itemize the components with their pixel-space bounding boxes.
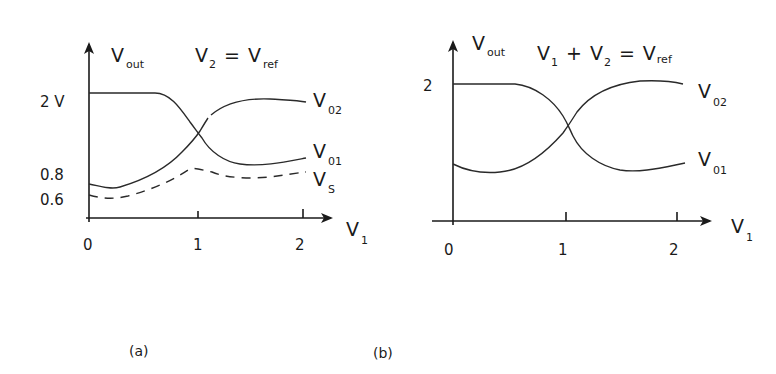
- x-tick-label-1-b: 1: [558, 241, 568, 259]
- y-axis-label-b: Vout: [472, 32, 506, 59]
- curve-v01-a: [89, 93, 306, 165]
- y-tick-0.6-a: 0.6: [40, 191, 64, 209]
- chart-b: Vout V1+V2=Vref 2 0 1 2 V1 V02 V01 (b): [373, 32, 753, 361]
- curve-vs-a: [89, 169, 306, 199]
- legend-v02-b: V02: [698, 80, 727, 109]
- title-a: V2=Vref: [195, 44, 279, 71]
- y-tick-2-b: 2: [423, 77, 433, 95]
- chart-a: Vout V2=Vref 2 V 0.8 0.6 0 1 2 V1 V02 V0…: [40, 44, 368, 359]
- x-tick-label-1-a: 1: [193, 236, 203, 254]
- y-tick-0.8-a: 0.8: [40, 166, 64, 184]
- x-tick-label-2-b: 2: [669, 241, 679, 259]
- y-axis-label-a: Vout: [111, 44, 145, 71]
- legend-v01-a: V01: [313, 140, 342, 168]
- x-tick-label-0-b: 0: [444, 241, 454, 259]
- legend-v01-b: V01: [698, 148, 727, 177]
- y-tick-2v-a: 2 V: [40, 93, 65, 111]
- caption-b: (b): [373, 345, 393, 361]
- caption-a: (a): [129, 343, 149, 359]
- legend-vs-a: VS: [313, 168, 335, 196]
- legend-v02-a: V02: [313, 89, 342, 117]
- x-tick-label-0-a: 0: [83, 236, 93, 254]
- x-axis-label-a: V1: [346, 218, 368, 247]
- title-b: V1+V2=Vref: [537, 42, 673, 69]
- x-tick-label-2-a: 2: [295, 236, 305, 254]
- figure: Vout V2=Vref 2 V 0.8 0.6 0 1 2 V1 V02 V0…: [0, 0, 776, 374]
- curve-v01-b: [453, 84, 685, 171]
- curve-v02-b: [453, 81, 683, 173]
- curve-v02-a: [89, 99, 306, 188]
- x-axis-label-b: V1: [731, 215, 753, 244]
